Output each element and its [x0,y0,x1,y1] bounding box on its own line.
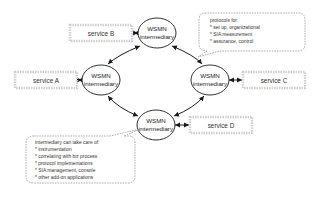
service-d-box: service D [190,117,252,133]
intermediary-right-line2: intermediary [193,80,228,87]
protocols-item: * assurance, control [210,39,253,44]
service-a-box: service A [15,72,77,88]
service-c-label: service C [261,77,288,84]
service-b-label: service B [88,30,114,37]
intermediary-top-line2: intermediary [140,33,175,40]
intermediary-callout-item: * protocol implementations [35,161,93,166]
intermediary-callout-item: * correlating with biz process [35,154,98,159]
protocols-title: protocols for: [210,18,238,23]
service-b-box: service B [70,25,132,41]
intermediary-top-line1: WSMN [147,25,167,32]
intermediary-right-line1: WSMN [200,72,220,79]
service-c-box: service C [243,72,305,88]
intermediary-callout-item: * instrumentation [35,147,72,152]
service-a-label: service A [33,77,60,84]
protocols-callout: protocols for: * set up, organizational … [198,13,305,57]
service-d-label: service D [208,122,235,129]
intermediary-top: WSMN intermediary [138,18,176,48]
intermediary-bottom: WSMN intermediary [137,110,175,140]
intermediary-callout-item: * SIA management, console [35,168,96,173]
link-top-right [172,46,202,64]
intermediary-left-line2: intermediary [84,80,119,87]
intermediary-left: WSMN intermediary [82,65,120,95]
intermediary-callout-title: intermediary can take care of: [35,140,99,145]
intermediary-bottom-line2: intermediary [139,125,174,132]
wsmn-diagram: service B service A service C service D … [0,0,316,197]
link-top-left [108,46,140,64]
link-left-bottom [108,96,138,116]
protocols-item: * SIA measurement [210,32,253,37]
protocols-item: * set up, organizational [210,25,260,30]
intermediary-callout-item: * other add-on applications [35,175,94,180]
link-right-bottom [174,96,204,116]
intermediary-right: WSMN intermediary [191,65,229,95]
intermediary-callout: intermediary can take care of: * instrum… [26,129,140,183]
intermediary-bottom-line1: WSMN [146,117,166,124]
intermediary-left-line1: WSMN [91,72,111,79]
